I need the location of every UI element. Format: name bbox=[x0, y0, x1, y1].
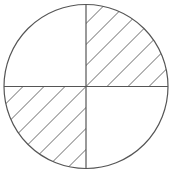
hatch-line bbox=[0, 0, 158, 177]
hatch-line bbox=[0, 0, 116, 177]
hatch-line bbox=[83, 0, 172, 177]
hatch-line bbox=[41, 0, 172, 177]
hatch-line bbox=[83, 0, 172, 177]
hatch-line bbox=[0, 0, 116, 177]
hatch-line bbox=[167, 0, 172, 177]
hatch-line bbox=[0, 0, 95, 177]
hatch-line bbox=[125, 0, 172, 177]
circle-quarters-figure bbox=[0, 0, 171, 177]
hatch-line bbox=[0, 0, 53, 177]
hatch-line bbox=[62, 0, 172, 177]
hatch-line bbox=[41, 0, 172, 177]
hatch-line bbox=[0, 0, 158, 177]
hatch-line bbox=[62, 0, 172, 177]
hatch-line bbox=[0, 0, 53, 177]
hatch-line bbox=[125, 0, 172, 177]
hatch-line bbox=[146, 0, 172, 177]
fraction-circle-diagram bbox=[0, 0, 171, 177]
hatch-line bbox=[0, 0, 95, 177]
hatch-line bbox=[146, 0, 172, 177]
hatch-line bbox=[167, 0, 172, 177]
